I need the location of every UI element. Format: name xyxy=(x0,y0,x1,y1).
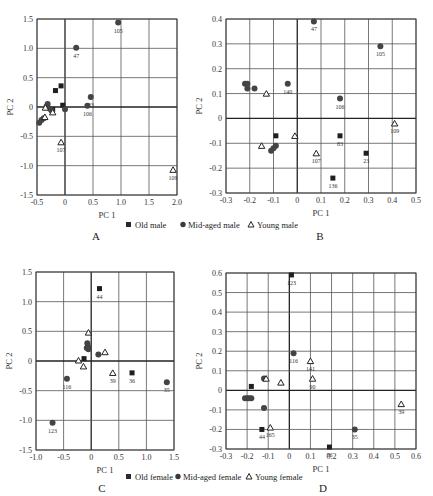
x-tick-label: 0.5 xyxy=(88,198,98,207)
x-tick-label: -0.5 xyxy=(57,453,70,462)
data-point-circle xyxy=(164,379,170,385)
x-tick-label: -0.1 xyxy=(262,452,275,461)
data-point-square xyxy=(364,151,369,156)
y-tick-label: 1.0 xyxy=(22,298,32,307)
x-tick-label: 1.5 xyxy=(144,198,154,207)
x-tick-label: -0.2 xyxy=(243,196,256,205)
point-label: 107 xyxy=(57,147,66,153)
y-tick-label: 1.5 xyxy=(23,15,33,24)
data-point-circle xyxy=(268,148,274,154)
grid xyxy=(226,19,416,193)
legend-male: Old male Mid-aged male Young male xyxy=(126,220,298,230)
y-tick-label: -1.5 xyxy=(20,191,33,200)
triangle-marker-icon xyxy=(248,222,254,228)
data-point-square xyxy=(273,133,278,138)
data-point-circle xyxy=(311,18,317,24)
x-tick-label: 0.5 xyxy=(114,453,124,462)
data-point-circle xyxy=(337,96,343,102)
y-tick-label: 1.5 xyxy=(22,268,32,277)
point-label: 44 xyxy=(96,294,102,300)
point-label: 165 xyxy=(266,432,275,438)
x-tick-label: 0.4 xyxy=(387,196,397,205)
point-label: 136 xyxy=(328,183,337,189)
x-tick-label: 1.0 xyxy=(141,453,151,462)
y-tick-label: 0.5 xyxy=(212,289,222,298)
circle-marker-icon xyxy=(180,222,185,227)
panel-b: -0.3-0.2-0.100.10.20.30.40.50.40.30.20.1… xyxy=(194,15,421,218)
panel-letter-c: C xyxy=(98,482,105,494)
data-point-circle xyxy=(377,43,383,49)
data-point-circle xyxy=(73,45,79,51)
data-point-triangle xyxy=(80,363,86,369)
x-axis-label: PC 1 xyxy=(313,464,330,474)
legend-female: Old female Mid-aged female Young female xyxy=(126,472,303,482)
data-point-circle xyxy=(252,86,258,92)
y-tick-label: 0.4 xyxy=(212,15,222,24)
y-tick-label: 0 xyxy=(28,357,32,366)
data-point-circle xyxy=(84,103,90,109)
grid xyxy=(226,273,416,449)
x-axis-label: PC 1 xyxy=(97,465,114,475)
point-label: 141 xyxy=(306,366,315,372)
data-point-circle xyxy=(50,420,56,426)
y-tick-label: -1.0 xyxy=(19,416,32,425)
x-tick-label: 0 xyxy=(287,452,291,461)
legend-young-female: Young female xyxy=(255,472,303,482)
panel-letter-a: A xyxy=(92,230,100,242)
panel-letter-d: D xyxy=(319,482,327,494)
series-young-male: 107109 xyxy=(258,91,399,165)
data-point-triangle xyxy=(278,380,284,386)
point-label: 109 xyxy=(390,128,399,134)
y-tick-label: 0 xyxy=(218,114,222,123)
point-label: 105 xyxy=(376,51,385,57)
data-point-circle xyxy=(95,351,101,357)
data-point-circle xyxy=(88,94,94,100)
y-tick-label: -0.1 xyxy=(209,139,222,148)
legend-old-male: Old male xyxy=(135,220,167,230)
point-label: 47 xyxy=(311,26,317,32)
y-tick-label: -0.1 xyxy=(209,406,222,415)
point-label: 107 xyxy=(312,158,321,164)
y-tick-label: 0.3 xyxy=(212,328,222,337)
x-axis-label: PC 1 xyxy=(99,210,116,220)
y-tick-label: 0.5 xyxy=(23,74,33,83)
panel-letter-b: B xyxy=(316,230,323,242)
circle-marker-icon xyxy=(175,474,180,479)
x-tick-label: 1.5 xyxy=(169,453,179,462)
data-point-circle xyxy=(285,81,291,87)
x-tick-label: 0 xyxy=(63,198,67,207)
point-label: 39 xyxy=(110,378,116,384)
y-tick-label: -0.5 xyxy=(19,387,32,396)
data-point-triangle xyxy=(110,370,116,376)
y-tick-label: 0.3 xyxy=(212,40,222,49)
data-point-square xyxy=(249,384,254,389)
square-marker-icon xyxy=(126,222,131,227)
x-tick-label: 2.0 xyxy=(172,198,182,207)
y-tick-label: -0.3 xyxy=(209,445,222,454)
data-point-square xyxy=(59,83,64,88)
y-tick-label: -0.2 xyxy=(209,164,222,173)
data-point-circle xyxy=(261,405,267,411)
pca-figure: -0.500.51.01.52.01.51.00.50-0.5-1.0-1.5P… xyxy=(0,0,433,496)
data-point-square xyxy=(53,88,58,93)
point-label: 116 xyxy=(289,358,298,364)
data-point-circle xyxy=(244,86,250,92)
y-tick-label: -0.2 xyxy=(209,425,222,434)
y-tick-label: 0.1 xyxy=(212,367,222,376)
y-tick-label: 0.2 xyxy=(212,65,222,74)
data-point-circle xyxy=(62,106,68,112)
data-point-circle xyxy=(64,376,70,382)
series-old-female: 1234436 xyxy=(249,272,333,458)
data-point-triangle xyxy=(58,139,64,145)
data-point-triangle xyxy=(102,349,108,355)
point-label: 35 xyxy=(164,387,170,393)
panel-a: -0.500.51.01.52.01.51.00.50-0.5-1.0-1.5P… xyxy=(5,15,182,220)
data-point-circle xyxy=(115,20,121,26)
point-label: 44 xyxy=(259,434,265,440)
x-tick-label: 0.1 xyxy=(305,452,315,461)
x-tick-label: 0.2 xyxy=(340,196,350,205)
y-tick-label: -0.5 xyxy=(20,132,33,141)
x-tick-label: 0 xyxy=(89,453,93,462)
y-tick-label: 0.4 xyxy=(212,308,222,317)
series-young-male: 107109 xyxy=(42,105,178,181)
